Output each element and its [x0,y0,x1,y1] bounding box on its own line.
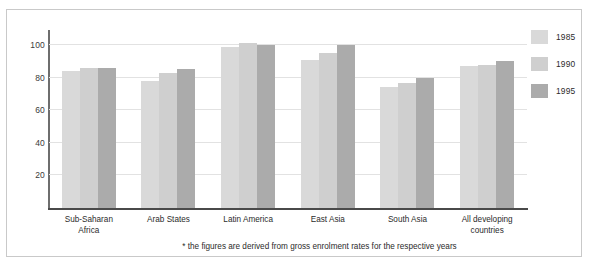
plot-area [49,32,527,208]
bar [496,61,514,208]
category-label-line: All developing [447,214,527,225]
category-label-line: East Asia [288,214,368,225]
x-axis-category-label: Latin America [208,214,288,225]
bar [337,45,355,208]
chart-legend: 198519901995 [531,30,589,111]
bar [141,81,159,208]
y-axis-tick-label: 40 [15,138,45,148]
y-axis-tick-label: 100 [15,40,45,50]
y-axis-tick-labels: 20406080100 [11,32,45,208]
x-axis-category-label: All developingcountries [447,214,527,236]
legend-label: 1990 [556,59,575,69]
legend-label: 1995 [556,86,575,96]
bar-group [288,32,368,208]
bar [460,66,478,208]
y-axis-tick-label: 20 [15,170,45,180]
bar [80,68,98,208]
bar-group [208,32,288,208]
bar [398,83,416,208]
figure-frame: 20406080100 Sub-SaharanAfricaArab States… [6,9,582,257]
bar [319,53,337,208]
bar-group [368,32,448,208]
bar-group [49,32,129,208]
bar [416,78,434,208]
bar [239,43,257,208]
legend-item[interactable]: 1990 [531,57,589,71]
x-axis-line [48,208,528,210]
bar [257,45,275,208]
category-label-line: South Asia [368,214,448,225]
bar-group [129,32,209,208]
chart-footnote: * the figures are derived from gross enr… [7,242,589,251]
x-axis-category-label: Arab States [129,214,209,225]
legend-label: 1985 [556,32,575,42]
x-axis-category-label: Sub-SaharanAfrica [49,214,129,236]
x-axis-category-labels: Sub-SaharanAfricaArab StatesLatin Americ… [49,214,527,244]
bar [62,71,80,208]
legend-swatch [531,57,548,71]
legend-swatch [531,30,548,44]
bar [98,68,116,208]
y-axis-tick-label: 60 [15,105,45,115]
legend-item[interactable]: 1995 [531,84,589,98]
chart-figure: 20406080100 Sub-SaharanAfricaArab States… [0,0,589,266]
category-label-line: Africa [49,225,129,236]
category-label-line: Sub-Saharan [49,214,129,225]
bar [301,60,319,208]
bar [478,65,496,208]
legend-item[interactable]: 1985 [531,30,589,44]
bar [177,69,195,208]
x-axis-category-label: East Asia [288,214,368,225]
legend-swatch [531,84,548,98]
category-label-line: countries [447,225,527,236]
bar [159,73,177,208]
x-axis-category-label: South Asia [368,214,448,225]
bar-group [447,32,527,208]
category-label-line: Latin America [208,214,288,225]
category-label-line: Arab States [129,214,209,225]
y-axis-tick-label: 80 [15,73,45,83]
bar [380,87,398,208]
bar [221,47,239,208]
